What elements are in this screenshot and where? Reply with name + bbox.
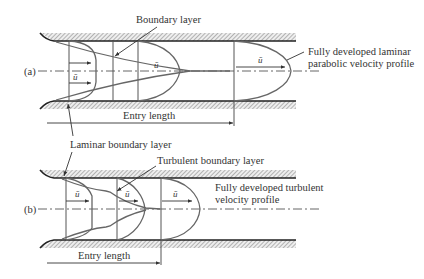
fully-developed-laminar-leader — [287, 52, 304, 60]
panel-b: ū ū ū (b) Turbulent boundary layer Fully… — [24, 152, 324, 265]
entry-length-label-a: Entry length — [123, 110, 176, 121]
fully-developed-turbulent-label-line1: Fully developed turbulent — [215, 182, 324, 193]
panel-a: ū ū ū (a) Boundary layer Fully developed… — [24, 14, 414, 136]
boundary-layer-top-a — [56, 42, 230, 71]
pipe-flow-entry-length-diagram: ū ū ū (a) Boundary layer Fully developed… — [0, 0, 424, 279]
boundary-layer-bottom-b — [62, 210, 146, 239]
pipe-top-wall-a — [40, 33, 296, 41]
u-bar-label-2-b: ū — [125, 189, 130, 199]
laminar-boundary-layer-label: Laminar boundary layer — [70, 139, 172, 150]
pipe-top-wall-b — [40, 170, 296, 178]
pipe-bottom-wall-a — [40, 101, 296, 109]
u-bar-label-1-a: ū — [73, 72, 78, 82]
panel-tag-b: (b) — [24, 204, 37, 216]
u-bar-label-3-a: ū — [154, 60, 159, 70]
panel-tag-a: (a) — [24, 66, 36, 78]
boundary-layer-label: Boundary layer — [136, 14, 202, 25]
entry-length-label-b: Entry length — [78, 250, 131, 261]
turbulent-boundary-layer-label: Turbulent boundary layer — [157, 155, 264, 166]
pipe-bottom-wall-b — [40, 240, 296, 248]
u-bar-label-1-b: ū — [75, 189, 80, 199]
fully-developed-turbulent-label-line2: velocity profile — [215, 194, 280, 205]
u-bar-label-3-b: ū — [173, 189, 178, 199]
fully-developed-laminar-label-line1: Fully developed laminar — [308, 46, 411, 57]
u-bar-label-4-a: ū — [258, 55, 263, 65]
fully-developed-laminar-label-line2: parabolic velocity profile — [308, 58, 414, 69]
